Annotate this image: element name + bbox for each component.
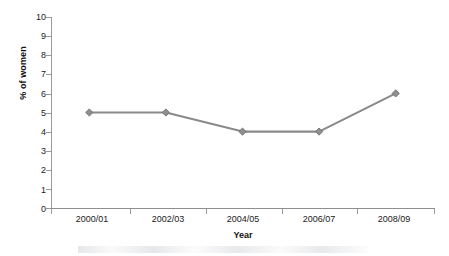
data-point-marker [162, 109, 169, 116]
series-line [89, 93, 395, 131]
x-axis-title: Year [51, 230, 435, 240]
data-point-marker [316, 128, 323, 135]
data-point-marker [392, 90, 399, 97]
data-point-marker [86, 109, 93, 116]
x-tick-label: 2004/05 [205, 214, 281, 225]
x-tick-label: 2000/01 [54, 214, 130, 225]
x-tick-label: 2006/07 [281, 214, 357, 225]
line-chart: % of women 10 9 8 7 6 5 4 3 2 1 0 2000/0… [0, 0, 449, 256]
x-tick-label: 2008/09 [356, 214, 432, 225]
scan-artifact [78, 246, 368, 253]
x-tick-label: 2002/03 [130, 214, 206, 225]
data-point-marker [239, 128, 246, 135]
